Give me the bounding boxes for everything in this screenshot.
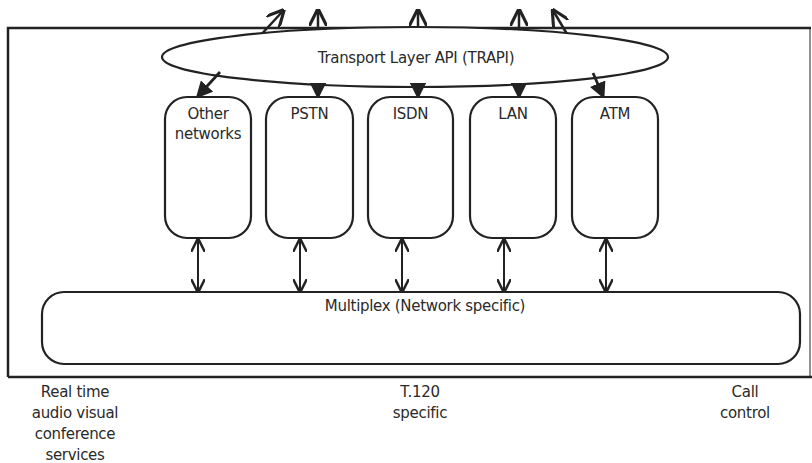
network-label-pstn: PSTN <box>266 104 353 124</box>
arrow-down-other <box>198 72 220 96</box>
network-label-atm: ATM <box>572 104 658 124</box>
network-label-pstn-line1: PSTN <box>266 104 353 124</box>
network-label-atm-line1: ATM <box>572 104 658 124</box>
caption-right-line1: Call <box>705 382 785 403</box>
caption-left-line3: conference <box>20 424 130 445</box>
network-label-other-line2: networks <box>165 124 251 144</box>
network-label-other-line1: Other <box>165 104 251 124</box>
network-label-isdn: ISDN <box>368 104 453 124</box>
multiplex-label: Multiplex (Network specific) <box>260 296 590 316</box>
network-label-lan: LAN <box>470 104 556 124</box>
caption-left-line2: audio visual <box>20 403 130 424</box>
caption-center-line2: specific <box>375 403 465 424</box>
caption-left-line1: Real time <box>20 382 130 403</box>
caption-realtime-av: Real time audio visual conference servic… <box>20 382 130 463</box>
network-label-lan-line1: LAN <box>470 104 556 124</box>
network-label-other: Other networks <box>165 104 251 144</box>
network-to-multiplex-arrows <box>198 241 606 290</box>
caption-call-control: Call control <box>705 382 785 424</box>
caption-right-line2: control <box>705 403 785 424</box>
network-label-isdn-line1: ISDN <box>368 104 453 124</box>
caption-center-line1: T.120 <box>375 382 465 403</box>
caption-t120: T.120 specific <box>375 382 465 424</box>
arrow-up-atm <box>554 12 567 34</box>
trapi-label: Transport Layer API (TRAPI) <box>250 48 582 68</box>
caption-left-line4: services <box>20 445 130 463</box>
